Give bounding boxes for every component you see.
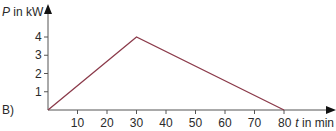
- power-time-chart: 1234 10203040506070 P in kW B) 80t in mi…: [0, 0, 336, 131]
- x-axis-label: 80t in min: [278, 116, 334, 130]
- power-curve: [48, 37, 284, 110]
- y-tick-label: 4: [35, 30, 42, 44]
- x-tick-label: 60: [218, 116, 232, 130]
- x-tick-label: 10: [71, 116, 85, 130]
- y-ticks: 1234: [35, 30, 48, 99]
- panel-label: B): [2, 103, 14, 117]
- x-tick-label: 50: [189, 116, 203, 130]
- y-axis-arrow-icon: [44, 4, 52, 14]
- x-ticks: 10203040506070: [71, 110, 284, 130]
- x-tick-label: 30: [130, 116, 144, 130]
- x-tick-label: 40: [159, 116, 173, 130]
- y-axis-label: P in kW: [2, 5, 44, 19]
- x-axis-arrow-icon: [326, 106, 336, 114]
- y-tick-label: 3: [35, 48, 42, 62]
- y-tick-label: 1: [35, 85, 42, 99]
- x-tick-label: 20: [100, 116, 114, 130]
- y-tick-label: 2: [35, 67, 42, 81]
- x-tick-label: 70: [248, 116, 262, 130]
